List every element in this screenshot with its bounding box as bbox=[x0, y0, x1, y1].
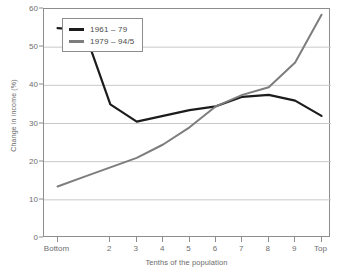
x-tick-label: 2 bbox=[107, 244, 111, 253]
legend-swatch-series-2 bbox=[69, 40, 84, 43]
y-tick-label: 10 bbox=[0, 194, 38, 203]
y-tick-label: 50 bbox=[0, 42, 38, 51]
legend-label-series-1: 1961 – 79 bbox=[90, 25, 127, 34]
y-tick-mark bbox=[39, 84, 43, 85]
x-tick-label: 5 bbox=[186, 244, 190, 253]
y-tick-mark bbox=[39, 46, 43, 47]
y-tick-mark bbox=[39, 122, 43, 123]
y-tick-label: 30 bbox=[0, 118, 38, 127]
y-tick-label: 40 bbox=[0, 80, 38, 89]
x-tick-mark bbox=[189, 237, 190, 242]
x-tick-mark bbox=[294, 237, 295, 242]
legend-item[interactable]: 1979 – 94/5 bbox=[69, 35, 134, 47]
x-tick-label: 6 bbox=[213, 244, 217, 253]
x-tick-label: Bottom bbox=[44, 244, 69, 253]
x-tick-mark bbox=[215, 237, 216, 242]
y-tick-label: 60 bbox=[0, 4, 38, 13]
x-tick-mark bbox=[241, 237, 242, 242]
x-tick-mark bbox=[268, 237, 269, 242]
y-tick-label: 0 bbox=[0, 233, 38, 242]
x-axis-title: Tenths of the population bbox=[43, 258, 330, 267]
legend-swatch-series-1 bbox=[69, 28, 84, 31]
x-tick-label: 8 bbox=[265, 244, 269, 253]
chart-legend[interactable]: 1961 – 79 1979 – 94/5 bbox=[62, 18, 143, 52]
x-tick-label: 3 bbox=[133, 244, 137, 253]
x-tick-mark bbox=[109, 237, 110, 242]
y-tick-label: 20 bbox=[0, 156, 38, 165]
x-tick-label: 7 bbox=[239, 244, 243, 253]
x-tick-label: Top bbox=[314, 244, 327, 253]
chart-figure: Change in income (%) 0102030405060 Botto… bbox=[0, 0, 348, 276]
x-tick-mark bbox=[321, 237, 322, 242]
legend-item[interactable]: 1961 – 79 bbox=[69, 23, 134, 35]
x-tick-label: 4 bbox=[160, 244, 164, 253]
x-tick-mark bbox=[57, 237, 58, 242]
x-tick-label: 9 bbox=[292, 244, 296, 253]
y-tick-mark bbox=[39, 198, 43, 199]
legend-label-series-2: 1979 – 94/5 bbox=[90, 37, 134, 46]
y-tick-mark bbox=[39, 160, 43, 161]
x-tick-mark bbox=[136, 237, 137, 242]
x-tick-mark bbox=[162, 237, 163, 242]
y-tick-mark bbox=[39, 8, 43, 9]
